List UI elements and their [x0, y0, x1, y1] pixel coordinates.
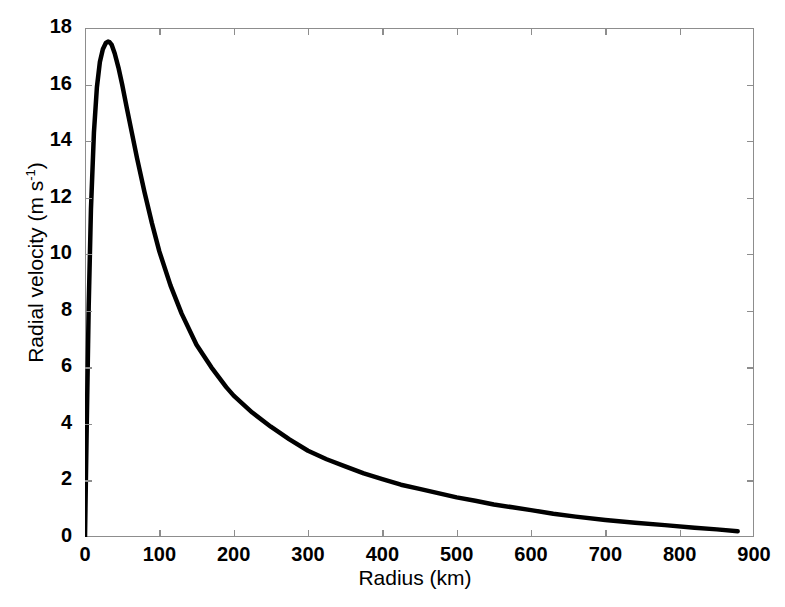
- y-tick-right: [747, 254, 754, 255]
- x-tick-top: [680, 28, 681, 35]
- x-tick-label: 500: [417, 543, 497, 566]
- x-tick-label: 200: [194, 543, 274, 566]
- x-tick-bottom: [159, 530, 160, 537]
- y-tick-right: [747, 367, 754, 368]
- radial-velocity-curve: [85, 28, 754, 537]
- x-tick-bottom: [605, 530, 606, 537]
- y-tick-left: [85, 141, 92, 142]
- x-axis-title: Radius (km): [205, 566, 625, 590]
- y-tick-left: [85, 254, 92, 255]
- x-tick-bottom: [382, 530, 383, 537]
- x-tick-top: [234, 28, 235, 35]
- x-tick-top: [531, 28, 532, 35]
- y-tick-right: [747, 85, 754, 86]
- y-tick-left: [85, 85, 92, 86]
- y-tick-right: [747, 198, 754, 199]
- x-tick-label: 600: [491, 543, 571, 566]
- y-tick-label: 0: [0, 524, 72, 547]
- x-tick-bottom: [680, 530, 681, 537]
- y-tick-left: [85, 424, 92, 425]
- chart-figure: 0100200300400500600700800900 02468101214…: [0, 0, 785, 607]
- y-tick-left: [85, 311, 92, 312]
- y-axis-title-prefix: Radial velocity (m s: [24, 181, 47, 363]
- x-tick-bottom: [308, 530, 309, 537]
- x-tick-bottom: [457, 530, 458, 537]
- x-tick-label: 900: [714, 543, 785, 566]
- y-tick-left: [85, 367, 92, 368]
- y-tick-left: [85, 480, 92, 481]
- x-tick-label: 700: [565, 543, 645, 566]
- x-tick-top: [382, 28, 383, 35]
- y-axis-title-superscript: -1: [23, 169, 38, 181]
- x-tick-top: [457, 28, 458, 35]
- x-tick-top: [308, 28, 309, 35]
- plot-area: [85, 28, 754, 537]
- x-tick-label: 300: [268, 543, 348, 566]
- x-tick-bottom: [234, 530, 235, 537]
- y-tick-right: [747, 311, 754, 312]
- y-axis-title: Radial velocity (m s-1): [23, 28, 48, 498]
- x-tick-top: [159, 28, 160, 35]
- x-tick-label: 100: [119, 543, 199, 566]
- y-tick-right: [747, 480, 754, 481]
- x-tick-label: 800: [640, 543, 720, 566]
- y-tick-right: [747, 141, 754, 142]
- x-tick-bottom: [531, 530, 532, 537]
- y-tick-right: [747, 424, 754, 425]
- x-tick-top: [605, 28, 606, 35]
- x-tick-label: 400: [342, 543, 422, 566]
- y-tick-left: [85, 198, 92, 199]
- y-axis-title-suffix: ): [24, 162, 47, 169]
